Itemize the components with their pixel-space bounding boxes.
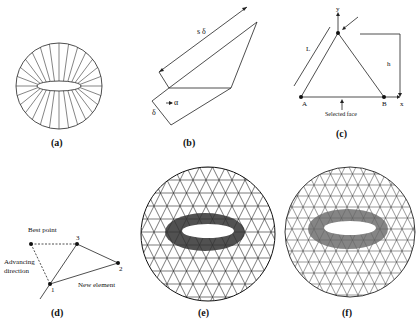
label-alpha: α — [174, 98, 178, 107]
label-new-element: New element — [78, 281, 115, 289]
label-selected-face: Selected face — [325, 111, 357, 117]
label-s-delta: s δ — [197, 27, 206, 36]
label-node-2: 2 — [119, 265, 123, 273]
caption-f: (f) — [342, 307, 352, 318]
caption-c: (c) — [336, 128, 347, 139]
label-node-3: 3 — [76, 234, 80, 242]
caption-e: (e) — [198, 307, 209, 318]
label-direction: direction — [4, 267, 29, 275]
label-best-point: Best point — [28, 226, 57, 234]
label-delta: δ — [152, 108, 156, 117]
label-L: L — [306, 45, 310, 53]
label-y: y — [336, 5, 340, 13]
caption-d: (d) — [51, 307, 63, 318]
caption-a: (a) — [51, 137, 63, 148]
panel-a: (a) — [0, 0, 140, 160]
panel-e: (e) — [130, 140, 280, 320]
coarse-mesh-diagram — [130, 140, 280, 320]
label-h: h — [387, 60, 391, 68]
advancing-front-diagram — [0, 160, 140, 320]
panel-f: (f) — [270, 140, 419, 320]
label-x: x — [400, 100, 404, 108]
panel-b: s δ α δ (b) — [130, 0, 280, 160]
label-node-1: 1 — [51, 286, 55, 294]
radial-mesh-diagram — [0, 0, 140, 160]
label-advancing: Advancing — [4, 258, 35, 266]
label-B: B — [382, 100, 387, 108]
label-A: A — [302, 100, 307, 108]
panel-d: Best point 3 2 1 Advancing direction New… — [0, 160, 140, 320]
refined-mesh-diagram — [270, 140, 419, 320]
layer-offset-diagram — [130, 0, 280, 160]
